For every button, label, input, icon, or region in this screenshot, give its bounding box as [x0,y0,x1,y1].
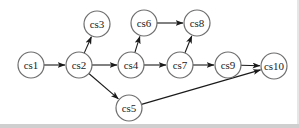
edge-cs2-to-cs3 [84,37,91,53]
node-cs8: cs8 [184,10,210,36]
node-cs7: cs7 [167,52,193,78]
graph-diagram: cs1cs2cs3cs4cs5cs6cs7cs8cs9cs10 [0,0,299,128]
node-label: cs3 [90,18,105,30]
node-label: cs8 [190,17,205,29]
node-cs2: cs2 [66,52,92,78]
edge-cs4-to-cs6 [135,36,140,52]
node-label: cs6 [137,17,152,29]
node-cs3: cs3 [84,11,110,37]
node-cs9: cs9 [215,52,241,78]
frame-edge-right [297,0,299,124]
node-cs5: cs5 [116,95,142,121]
node-cs10: cs10 [261,53,287,79]
node-label: cs1 [24,59,39,71]
edge-cs5-to-cs10 [141,70,260,104]
node-label: cs7 [173,59,188,71]
node-label: cs4 [124,59,139,71]
node-label: cs9 [221,59,236,71]
frame-edge-bottom [0,124,299,128]
node-cs4: cs4 [118,52,144,78]
node-cs6: cs6 [131,10,157,36]
node-cs1: cs1 [18,52,44,78]
edge-cs2-to-cs5 [89,73,119,98]
node-label: cs2 [72,59,87,71]
node-label: cs5 [122,102,137,114]
edge-cs7-to-cs8 [185,36,192,53]
node-label: cs10 [264,60,285,72]
